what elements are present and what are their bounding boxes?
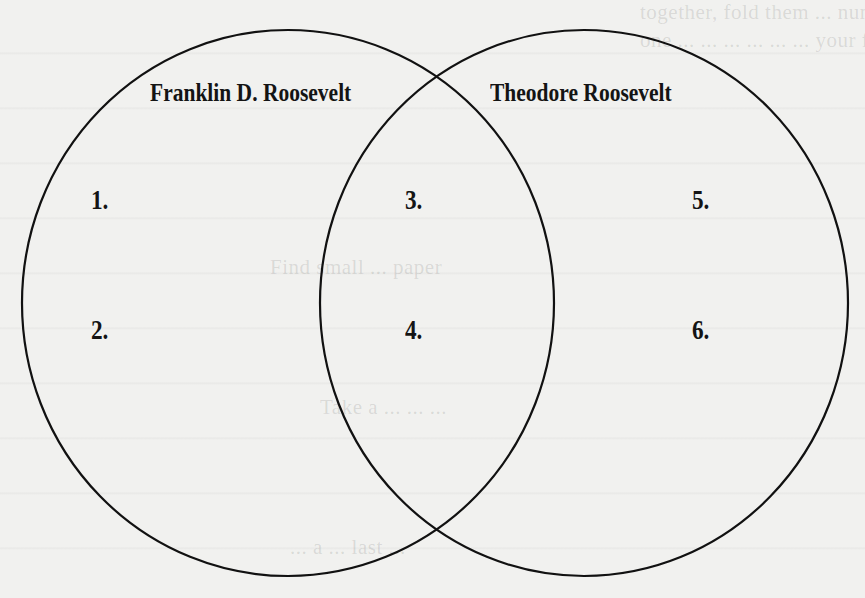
slot-4: 4. — [405, 315, 422, 346]
slot-2: 2. — [91, 315, 108, 346]
slot-1: 1. — [91, 185, 108, 216]
circle-theodore-roosevelt — [320, 30, 848, 576]
venn-diagram — [0, 0, 865, 598]
circle-title-theodore: Theodore Roosevelt — [490, 79, 672, 107]
slot-3: 3. — [405, 185, 422, 216]
circle-franklin-d-roosevelt — [22, 30, 554, 576]
slot-6: 6. — [692, 315, 709, 346]
circle-title-franklin: Franklin D. Roosevelt — [150, 79, 351, 107]
slot-5: 5. — [692, 185, 709, 216]
